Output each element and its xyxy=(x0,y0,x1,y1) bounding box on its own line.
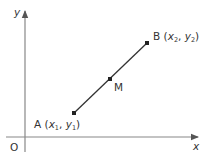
point-m-marker xyxy=(108,77,112,81)
origin-label: O xyxy=(10,141,18,153)
coordinate-diagram: y x O B (x2, y2) M A (x1, y1) xyxy=(0,0,210,162)
point-b-label: B (x2, y2) xyxy=(153,30,199,44)
point-a-label: A (x1, y1) xyxy=(34,118,80,132)
x-axis-label: x xyxy=(192,140,200,152)
point-m-label: M xyxy=(114,81,123,93)
point-a-marker xyxy=(72,111,76,115)
y-axis-label: y xyxy=(13,6,21,18)
point-b-marker xyxy=(145,41,149,45)
